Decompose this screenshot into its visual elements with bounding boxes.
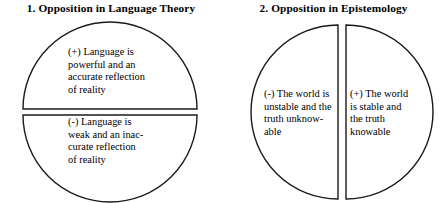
segment-label-epistemology-negative: (-) The world is unstable and the truth … bbox=[264, 88, 356, 138]
diagram-epistemology: (-) The world is unstable and the truth … bbox=[222, 0, 445, 203]
panel-epistemology: 2. Opposition in Epistemology (-) The wo… bbox=[222, 0, 445, 203]
segment-label-language-negative: (-) Language is weak and an inac- curate… bbox=[68, 116, 186, 166]
segment-label-language-positive: (+) Language is powerful and an accurate… bbox=[68, 46, 186, 96]
panel-language-theory: 1. Opposition in Language Theory (+) Lan… bbox=[0, 0, 222, 203]
segment-label-epistemology-positive: (+) The world is stable and the truth kn… bbox=[350, 88, 438, 138]
diagram-language-theory: (+) Language is powerful and an accurate… bbox=[0, 0, 222, 203]
